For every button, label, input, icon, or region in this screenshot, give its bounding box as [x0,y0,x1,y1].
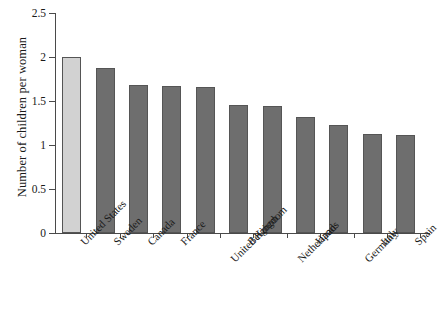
y-axis-tick-label: 2.5 [32,7,46,19]
x-axis-label-netherlands: Netherlands [295,256,303,264]
y-axis-tick-label: 1 [40,139,46,151]
bar-spain [396,135,415,233]
bar-japan [296,117,315,233]
y-axis-tick [49,189,55,190]
x-axis-label-united-kingdom: United Kingdom [228,256,236,264]
x-axis-label-united-states: United States [78,239,86,247]
x-axis-label-sweden: Sweden [111,239,119,247]
chart-page: Number of children per woman 00.511.522.… [0,0,439,321]
bar-united-states [62,57,81,233]
x-axis-tick [220,233,221,238]
y-axis-tick [49,233,55,234]
x-axis-label-germany: Germany [362,256,370,264]
y-axis-tick [49,57,55,58]
y-axis-tick [49,13,55,14]
x-axis-line [55,233,430,234]
bar-united-kingdom [196,87,215,233]
x-axis-label-spain: Spain [412,239,420,247]
y-axis-tick-label: 0.5 [32,183,46,195]
y-axis-tick-label: 2 [40,51,46,63]
y-axis-line [55,13,56,234]
y-axis-tick-label: 1.5 [32,95,46,107]
x-axis-label-france: France [178,239,186,247]
bar-france [162,86,181,233]
y-axis-tick [49,101,55,102]
bar-germany [329,125,348,233]
bar-belgium [229,105,248,233]
bar-italy [363,134,382,233]
y-axis-tick-label: 0 [40,227,46,239]
bar-canada [129,85,148,233]
x-axis-tick [287,233,288,238]
plot-area: 00.511.522.5 United StatesSwedenCanadaFr… [0,0,439,321]
y-axis-tick [49,145,55,146]
x-axis-tick [354,233,355,238]
x-axis-label-canada: Canada [145,239,153,247]
